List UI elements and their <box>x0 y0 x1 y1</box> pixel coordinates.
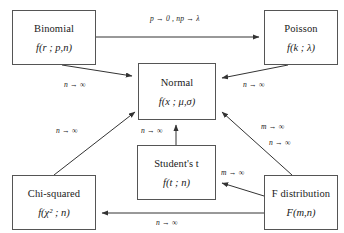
edge-label-fdistribution-to-normal-m: m → ∞ <box>261 122 284 131</box>
edge-label-fdistribution-to-chisquared: n → ∞ <box>156 218 178 227</box>
node-f-distribution-label: F distribution <box>272 187 330 200</box>
node-poisson-pdf: f(k ; λ) <box>287 41 315 54</box>
node-binomial[interactable]: Binomial f(r ; p,n) <box>12 10 96 65</box>
edge-label-fdistribution-to-studentst: m → ∞ <box>221 168 244 177</box>
node-binomial-label: Binomial <box>34 22 74 35</box>
distribution-relationship-diagram: Binomial f(r ; p,n) Poisson f(k ; λ) Nor… <box>0 0 344 233</box>
node-students-t[interactable]: Student's t f(t ; n) <box>137 145 216 200</box>
node-chi-squared-label: Chi-squared <box>28 187 80 200</box>
arrow-chisquared-to-normal <box>54 112 135 175</box>
node-normal-pdf: f(x ; μ,σ) <box>159 95 195 108</box>
edge-label-fdistribution-to-normal-n: n → ∞ <box>269 138 291 147</box>
node-students-t-label: Student's t <box>154 157 199 170</box>
node-normal[interactable]: Normal f(x ; μ,σ) <box>138 63 216 120</box>
node-poisson[interactable]: Poisson f(k ; λ) <box>264 10 338 65</box>
node-chi-squared-pdf: f(χ² ; n) <box>38 206 70 219</box>
node-binomial-pdf: f(r ; p,n) <box>36 41 72 54</box>
arrow-binomial-to-normal <box>62 65 132 76</box>
node-normal-label: Normal <box>161 76 194 89</box>
arrow-poisson-to-normal <box>222 65 288 78</box>
node-chi-squared[interactable]: Chi-squared f(χ² ; n) <box>12 175 96 230</box>
node-poisson-label: Poisson <box>284 22 317 35</box>
edge-label-chisquared-to-normal: n → ∞ <box>56 126 78 135</box>
node-students-t-pdf: f(t ; n) <box>163 176 190 189</box>
edge-label-binomial-to-normal: n → ∞ <box>64 80 86 89</box>
edge-label-studentst-to-normal: n → ∞ <box>141 126 163 135</box>
node-f-distribution[interactable]: F distribution F(m,n) <box>264 175 338 230</box>
edge-label-binomial-to-poisson: p → 0 , np → λ <box>150 14 200 23</box>
edge-label-poisson-to-normal: n → ∞ <box>243 80 265 89</box>
node-f-distribution-pdf: F(m,n) <box>287 206 316 219</box>
